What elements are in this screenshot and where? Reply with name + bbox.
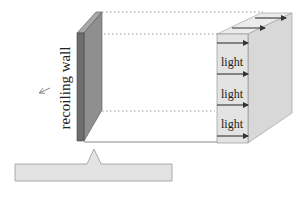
recoiling-wall <box>77 12 102 141</box>
wall-label: recoiling wall <box>57 47 73 130</box>
light-label: light <box>221 87 244 101</box>
wall-side-face <box>84 12 102 141</box>
light-label: light <box>221 117 244 131</box>
block-side-face <box>248 13 292 143</box>
recoil-arrow-icon <box>40 88 50 93</box>
wall-front-face <box>77 33 84 141</box>
recoiling-wall-diagram: recoiling wall light light light <box>0 0 307 197</box>
pulse-bar <box>15 149 172 181</box>
light-label: light <box>221 55 244 69</box>
